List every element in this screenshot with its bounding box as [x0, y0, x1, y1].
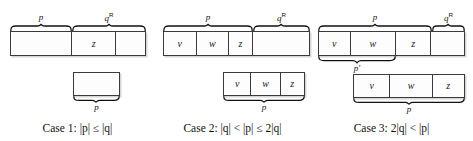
case-2-top-box: v w z: [163, 31, 310, 56]
brace-p-case-2: [163, 24, 253, 31]
case-2-caption: Case 2: |q| < |p| ≤ 2|q|: [155, 122, 310, 135]
brace-label-p-bottom-case-3: p: [353, 105, 465, 114]
case-3-caption: Case 3: 2|q| < |p|: [310, 122, 473, 135]
cell-z: z: [229, 32, 253, 55]
cell-w: w: [197, 32, 230, 55]
brace-text: p: [407, 104, 412, 114]
brace-text: p: [262, 102, 267, 112]
case-2-bottom-box: v w z: [223, 72, 305, 96]
brace-label-p-case-3: p: [318, 13, 432, 22]
brace-label-qR-case-3: qR: [432, 12, 465, 23]
cell-empty: [253, 32, 309, 55]
cell-v: v: [354, 75, 390, 97]
caption-text: Case 1: |p| ≤ |q|: [43, 122, 113, 134]
cell-z: z: [281, 73, 304, 95]
case-3-bottom-box: v w z: [353, 74, 465, 98]
brace-label-p-case-1: p: [10, 13, 72, 22]
brace-superscript: R: [282, 11, 286, 18]
brace-superscript: R: [449, 11, 453, 18]
brace-p-case-1: [10, 24, 72, 31]
caption-text: Case 3: 2|q| < |p|: [354, 122, 430, 134]
brace-text: p: [39, 12, 44, 22]
case-3-group: p qR v w z p′ v w: [310, 0, 473, 141]
brace-p-case-3: [318, 24, 432, 31]
brace-superscript: R: [109, 11, 113, 18]
brace-text: p: [206, 12, 211, 22]
cell-empty: [116, 32, 145, 55]
brace-qR-case-1: [72, 24, 146, 31]
brace-qR-case-3: [432, 24, 465, 31]
cell-v: v: [164, 32, 197, 55]
brace-label-p-bottom-case-1: p: [73, 103, 120, 112]
cell-empty: [11, 32, 72, 55]
case-2-group: p qR v w z v w z: [155, 0, 310, 141]
cell-w: w: [351, 32, 396, 55]
cell-v: v: [319, 32, 351, 55]
brace-label-p-case-2: p: [163, 13, 253, 22]
cell-z: z: [433, 75, 464, 97]
cell-z: z: [396, 32, 432, 55]
cell-z: z: [72, 32, 116, 55]
case-3-top-box: v w z: [318, 31, 465, 56]
brace-label-qR-case-1: qR: [72, 12, 146, 23]
brace-label-p-bottom-case-2: p: [223, 103, 305, 112]
caption-text: Case 2: |q| < |p| ≤ 2|q|: [183, 122, 281, 134]
cell-w: w: [251, 73, 280, 95]
brace-qR-case-2: [253, 24, 310, 31]
cell-empty: [74, 73, 119, 95]
brace-text: p: [373, 12, 378, 22]
case-1-bottom-box: [73, 72, 120, 96]
case-1-group: p qR z p: [0, 0, 155, 141]
brace-text: p: [94, 102, 99, 112]
figure-container: p qR z p: [0, 0, 473, 141]
cell-empty: [431, 32, 464, 55]
cell-v: v: [224, 73, 251, 95]
case-1-caption: Case 1: |p| ≤ |q|: [0, 122, 155, 135]
brace-prime: ′: [358, 63, 360, 73]
case-1-top-box: z: [10, 31, 146, 56]
brace-label-p-prime-case-3: p′: [318, 64, 396, 73]
brace-label-qR-case-2: qR: [253, 12, 310, 23]
cell-w: w: [390, 75, 432, 97]
